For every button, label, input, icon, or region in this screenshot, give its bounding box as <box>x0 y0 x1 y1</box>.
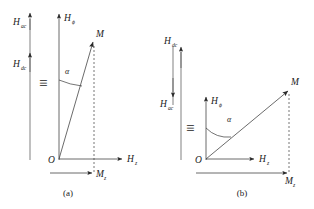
panel-a-caption: (a) <box>63 188 73 198</box>
panel-a-hdc-label: H <box>12 59 21 69</box>
panel-a-m-vector-line <box>59 42 93 159</box>
panel-b-vertical-axis: H ϕ <box>206 96 222 160</box>
panel-a-alpha-arc <box>59 80 82 86</box>
panel-a-vertical-axis: H ϕ <box>59 13 75 160</box>
panel-b-mz-projection: M z <box>196 173 296 188</box>
panel-a-hz-label: H <box>126 154 135 164</box>
panel-b-angle: α <box>206 115 232 137</box>
panel-b-m-label: M <box>290 77 300 87</box>
panel-b-mz-subscript: z <box>292 182 296 188</box>
panel-a-m-label: M <box>95 29 105 39</box>
panel-a: H ac H dc ≡ H ϕ O M α H <box>12 13 138 198</box>
panel-b-origin-label: O <box>195 155 202 165</box>
figure-root: H ac H dc ≡ H ϕ O M α H <box>0 0 314 209</box>
panel-b-alpha-label: α <box>227 115 232 124</box>
panel-a-hdc-subscript: dc <box>21 65 27 71</box>
panel-a-angle: α <box>59 67 82 86</box>
panel-a-equiv-symbol: ≡ <box>39 75 47 91</box>
panel-a-hz-subscript: z <box>134 160 138 166</box>
panel-a-hac-subscript: ac <box>21 23 27 29</box>
panel-a-horizontal-axis: H z <box>59 154 138 166</box>
panel-b-hphi-subscript: ϕ <box>219 102 222 108</box>
panel-a-origin-label: O <box>48 155 55 165</box>
panel-b: H dc H ac ≡ H ϕ O M α H <box>159 36 300 198</box>
panel-b-hdc-subscript: dc <box>172 42 178 48</box>
panel-b-caption: (b) <box>237 188 248 198</box>
panel-a-mz-subscript: z <box>103 175 107 181</box>
panel-a-hac-label: H <box>12 17 21 27</box>
panel-b-hz-label: H <box>258 154 267 164</box>
panel-b-field-stack: H dc H ac <box>159 36 181 160</box>
panel-b-hz-subscript: z <box>266 160 270 166</box>
panel-a-hphi-label: H <box>63 13 72 23</box>
panel-b-hphi-label: H <box>210 96 219 106</box>
panel-b-magnetization-vector: M <box>206 77 300 159</box>
panel-b-equiv-symbol: ≡ <box>186 120 194 136</box>
panel-b-hdc-label: H <box>163 36 172 46</box>
panel-b-hac-subscript: ac <box>168 105 174 111</box>
panel-a-mz-projection: M z <box>50 169 107 181</box>
panel-a-field-stack: H ac H dc <box>12 13 30 160</box>
panel-b-alpha-arc <box>206 128 231 137</box>
panel-a-magnetization-vector: M <box>59 29 105 159</box>
panel-b-horizontal-axis: H z <box>206 154 270 166</box>
panel-b-hac-label: H <box>159 99 168 109</box>
vector-diagram-svg: H ac H dc ≡ H ϕ O M α H <box>0 0 314 209</box>
panel-a-alpha-label: α <box>65 67 70 76</box>
panel-a-hphi-subscript: ϕ <box>72 19 75 25</box>
